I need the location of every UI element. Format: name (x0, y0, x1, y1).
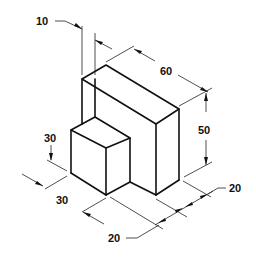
dimension-30-height: 30 (44, 132, 67, 171)
dimension-label-10: 10 (36, 15, 48, 27)
dimension-10: 10 (36, 15, 112, 75)
dimension-20-bottom: 20 20 (108, 181, 241, 244)
dimension-50: 50 (184, 93, 212, 177)
dimension-label-30-width: 30 (56, 194, 68, 206)
isometric-drawing: 10 60 50 30 30 (0, 0, 256, 264)
dimension-label-60: 60 (160, 65, 172, 77)
dimension-label-20-right: 20 (229, 182, 241, 194)
dimension-label-30-height: 30 (44, 132, 56, 144)
dimension-label-20-left: 20 (108, 232, 120, 244)
small-cube (71, 117, 130, 195)
dimension-label-50: 50 (198, 124, 210, 136)
dimension-30-width: 30 (22, 174, 106, 224)
